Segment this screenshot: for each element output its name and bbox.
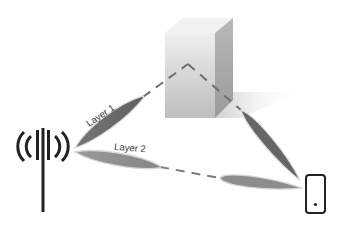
- layer1-beam-rx: [237, 106, 304, 183]
- layer2-direct-path: [160, 167, 220, 178]
- layer2-label: Layer 2: [114, 141, 146, 154]
- layer2-beam-rx: [219, 172, 303, 193]
- obstacle-block: [165, 18, 300, 118]
- diagram-canvas: Layer 1 Layer 2: [0, 0, 344, 225]
- antenna-tower-icon: [18, 128, 68, 212]
- smartphone-icon: [306, 175, 325, 213]
